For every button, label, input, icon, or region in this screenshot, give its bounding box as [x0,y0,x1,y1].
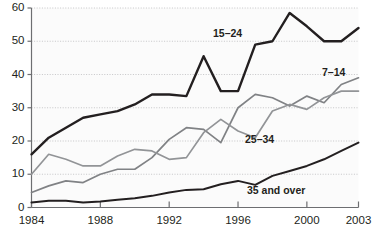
y-axis-label: 60 [0,1,25,13]
x-axis-label: 1984 [10,214,54,226]
x-axis-label: 1992 [147,214,191,226]
x-axis-label: 2003 [337,214,374,226]
y-axis-label: 0 [0,201,25,213]
chart-container: 010203040506019841988199219962000200315–… [0,0,374,247]
series-label-3: 25–34 [245,133,274,145]
y-axis-label: 50 [0,34,25,46]
x-axis-label: 1988 [78,214,122,226]
x-axis-label: 2000 [285,214,329,226]
line-chart-svg [0,0,374,247]
x-axis-label: 1996 [216,214,260,226]
series-label-2: 7–14 [322,66,345,78]
y-axis-label: 30 [0,101,25,113]
y-axis-label: 20 [0,134,25,146]
y-axis-label: 10 [0,167,25,179]
series-label-1: 15–24 [213,27,242,39]
y-axis-label: 40 [0,68,25,80]
series-label-4: 35 and over [247,184,305,196]
